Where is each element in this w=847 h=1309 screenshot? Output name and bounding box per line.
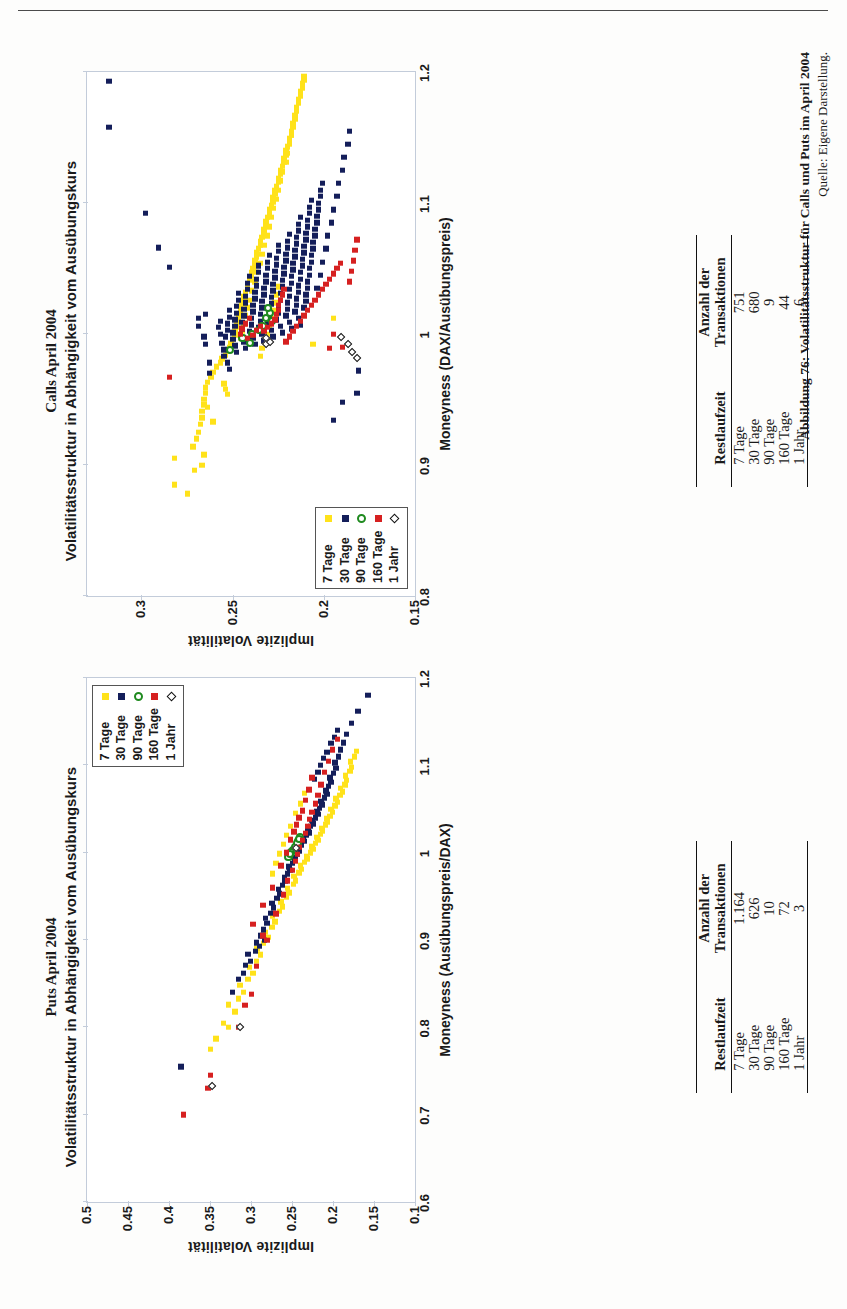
cell-anzahl: 680 — [746, 235, 761, 369]
data-point-7-tage — [192, 451, 210, 456]
data-point-30-tage — [331, 399, 349, 404]
legend-labels-calls: 7 Tage30 Tage90 Tage160 Tage1 Jahr — [320, 530, 403, 583]
data-point-160-tage — [345, 236, 363, 241]
data-point-30-tage — [221, 989, 239, 994]
data-point-7-tage — [204, 1035, 222, 1040]
x-axis-ticks-puts: 0.60.70.80.911.11.2 — [415, 677, 435, 1203]
legend-labels-puts: 7 Tage30 Tage90 Tage160 Tage1 Jahr — [96, 708, 179, 761]
data-point-7-tage — [249, 353, 267, 358]
caption-text: Abbildung 76: Volatilitätsstruktur für C… — [796, 52, 814, 1257]
table-wrap-calls: RestlaufzeitAnzahl derTransaktionen7 Tag… — [696, 71, 792, 651]
data-point-160-tage — [307, 292, 325, 297]
data-point-160-tage — [269, 863, 287, 868]
data-point-7-tage — [276, 150, 294, 155]
data-point-160-tage — [285, 323, 303, 328]
table-header-restlaufzeit: Restlaufzeit — [696, 975, 731, 1092]
data-point-1-jahr — [200, 1083, 218, 1089]
legend-marker-square-icon — [320, 515, 337, 522]
data-point-160-tage — [240, 991, 258, 996]
data-point-160-tage — [276, 877, 294, 882]
data-point-160-tage — [300, 302, 318, 307]
data-point-7-tage — [185, 436, 203, 441]
y-tick-label: 0.35 — [201, 1206, 216, 1231]
legend-marker-square-icon — [96, 693, 113, 700]
data-point-30-tage — [157, 264, 175, 269]
legend-marker-square-icon — [146, 693, 163, 700]
data-point-160-tage — [325, 265, 343, 270]
data-point-160-tage — [172, 1111, 190, 1116]
data-point-160-tage — [251, 932, 269, 937]
table-row: 7 Tage751 — [731, 235, 747, 486]
y-tick-label: 0.4 — [160, 1206, 175, 1224]
cell-anzahl: 1.164 — [731, 841, 747, 975]
y-tick-label: 0.2 — [315, 600, 330, 618]
x-tick-label: 1.2 — [416, 669, 431, 687]
data-point-30-tage — [198, 360, 216, 365]
data-point-160-tage — [278, 333, 296, 338]
data-point-30-tage — [321, 206, 339, 211]
data-point-7-tage — [292, 73, 310, 78]
data-point-30-tage — [347, 367, 365, 372]
legend-label-4: 1 Jahr — [162, 708, 179, 761]
data-point-30-tage — [314, 246, 332, 251]
data-point-7-tage — [214, 386, 232, 391]
legend-label-1: 30 Tage — [113, 708, 130, 761]
chart-title-puts: Puts April 2004 — [42, 677, 61, 1257]
table-header-anzahl: Anzahl derTransaktionen — [696, 235, 731, 369]
data-point-30-tage — [305, 213, 323, 218]
legend-label-4: 1 Jahr — [386, 530, 403, 583]
data-point-160-tage — [303, 297, 321, 302]
data-point-90-tage — [219, 345, 237, 353]
legend-label-0: 7 Tage — [320, 530, 337, 583]
data-point-7-tage — [183, 467, 201, 472]
data-point-7-tage — [212, 381, 230, 386]
y-axis-ticks-puts: 0.10.150.20.250.30.350.40.450.5 — [85, 1203, 415, 1237]
data-point-30-tage — [326, 727, 344, 732]
x-tick-label: 1.2 — [416, 63, 431, 81]
table-puts: RestlaufzeitAnzahl derTransaktionen7 Tag… — [696, 841, 808, 1092]
cell-restlaufzeit: 30 Tage — [746, 369, 761, 486]
data-point-1-jahr — [228, 1024, 246, 1030]
data-point-30-tage — [231, 970, 249, 975]
data-point-7-tage — [199, 1046, 217, 1051]
chart-panel-calls: Calls April 2004 Volatilitätsstruktur in… — [42, 71, 453, 651]
table-row: 7 Tage1.164 — [731, 841, 747, 1092]
data-point-160-tage — [343, 247, 361, 252]
data-point-30-tage — [194, 311, 212, 316]
data-point-7-tage — [163, 481, 181, 486]
y-tick-label: 0.25 — [224, 600, 239, 625]
y-tick-label: 0.45 — [119, 1206, 134, 1231]
data-point-160-tage — [309, 781, 327, 786]
x-tick-label: 0.8 — [416, 1019, 431, 1037]
legend-marker-square-icon — [336, 515, 353, 522]
data-point-1-jahr — [336, 341, 354, 347]
cell-anzahl: 9 — [761, 235, 776, 369]
chart-panel-puts: Puts April 2004 Volatilitätsstruktur in … — [42, 677, 453, 1257]
y-tick-mark — [291, 1201, 292, 1206]
data-point-7-tage — [217, 1001, 235, 1006]
data-point-160-tage — [269, 297, 287, 302]
legend-marker-square-icon — [113, 693, 130, 700]
data-point-30-tage — [321, 417, 339, 422]
data-point-160-tage — [285, 822, 303, 827]
y-tick-label: 0.2 — [324, 1206, 339, 1224]
data-point-160-tage — [279, 836, 297, 841]
x-axis-ticks-calls: 0.80.911.11.2 — [415, 71, 435, 597]
data-point-160-tage — [261, 884, 279, 889]
y-tick-label: 0.15 — [365, 1206, 380, 1231]
data-point-7-tage — [267, 187, 285, 192]
data-point-7-tage — [187, 429, 205, 434]
data-point-30-tage — [296, 278, 314, 283]
cell-anzahl: 72 — [776, 841, 791, 975]
cell-restlaufzeit: 30 Tage — [746, 975, 761, 1092]
y-axis-ticks-calls: 0.150.20.250.3 — [85, 597, 415, 631]
legend-label-3: 160 Tage — [146, 708, 163, 761]
x-tick-label: 0.8 — [416, 587, 431, 605]
y-tick-label: 0.25 — [283, 1206, 298, 1231]
data-point-30-tage — [356, 692, 374, 697]
data-point-7-tage — [261, 205, 279, 210]
data-point-160-tage — [338, 278, 356, 283]
data-point-160-tage — [264, 911, 282, 916]
data-point-160-tage — [314, 281, 332, 286]
data-point-7-tage — [270, 168, 288, 173]
